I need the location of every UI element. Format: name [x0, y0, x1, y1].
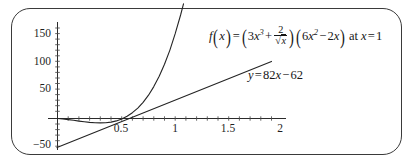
- tangent-line-curve: [57, 61, 272, 147]
- tangent-equals: =: [254, 68, 263, 82]
- group2-close-paren: ): [340, 30, 345, 46]
- fx-open-paren: (: [213, 30, 218, 46]
- function-curve: [58, 4, 184, 123]
- tangent-equation-label: y=82x−62: [248, 69, 303, 82]
- x-tick-label-2: 2: [272, 123, 288, 135]
- tangent-intercept: 62: [291, 68, 304, 82]
- at-var: x: [358, 29, 367, 43]
- at-equals: =: [367, 29, 376, 43]
- fx-close-paren: ): [226, 30, 231, 46]
- group1-open-paren: (: [242, 30, 247, 46]
- radicand-var: x: [281, 34, 287, 46]
- group2-open-paren: (: [296, 30, 301, 46]
- fx-equals: =: [232, 29, 241, 43]
- tangent-minus: −: [281, 68, 290, 82]
- tangent-slope: 82: [263, 68, 276, 82]
- x-tick-label-1-5: 1.5: [217, 123, 239, 135]
- group1-close-paren: ): [289, 30, 294, 46]
- function-equation-label: f(x)=(3x3+2√x)(6x2−2x)atx=1: [209, 25, 382, 47]
- at-text: at: [346, 29, 358, 43]
- y-tick-label-50: 50: [22, 83, 51, 95]
- y-tick-label-100: 100: [22, 56, 51, 68]
- fraction-denominator: √x: [274, 35, 287, 46]
- tangent-lhs: y: [248, 68, 254, 82]
- var-c: x: [334, 29, 340, 43]
- fraction-two-over-sqrt-x: 2√x: [274, 25, 287, 47]
- y-tick-label-neg50: −50: [19, 139, 51, 151]
- x-tick-label-1: 1: [167, 123, 183, 135]
- at-value: 1: [376, 29, 382, 43]
- plus-operator: +: [264, 29, 273, 43]
- x-tick-label-0-5: 0.5: [110, 123, 132, 135]
- figure-container: 150 100 50 −50 0.5 1 1.5 2 f(x)=(3x3+2√x…: [0, 0, 417, 167]
- y-tick-label-150: 150: [22, 28, 51, 40]
- fx-arg: x: [219, 29, 225, 43]
